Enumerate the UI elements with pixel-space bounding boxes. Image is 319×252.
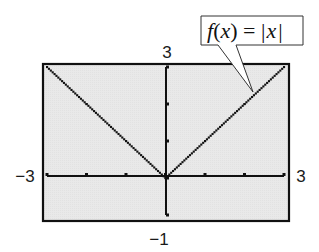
y-tick (166, 66, 169, 69)
x-tick (46, 173, 49, 176)
x-tick (283, 173, 286, 176)
y-tick (166, 214, 169, 217)
x-tick (243, 173, 246, 176)
y-tick (166, 103, 169, 106)
x-tick (125, 173, 128, 176)
callout-label: f(x) = |x| (207, 18, 283, 43)
y-tick (166, 140, 169, 143)
xmax-label: 3 (296, 167, 305, 186)
x-tick (204, 173, 207, 176)
xmin-label: −3 (15, 167, 34, 186)
graph-figure: 3 −1 −3 3 f(x) = |x| (0, 0, 319, 252)
x-tick (85, 173, 88, 176)
ymin-label: −1 (149, 230, 168, 249)
ymax-label: 3 (162, 43, 171, 62)
